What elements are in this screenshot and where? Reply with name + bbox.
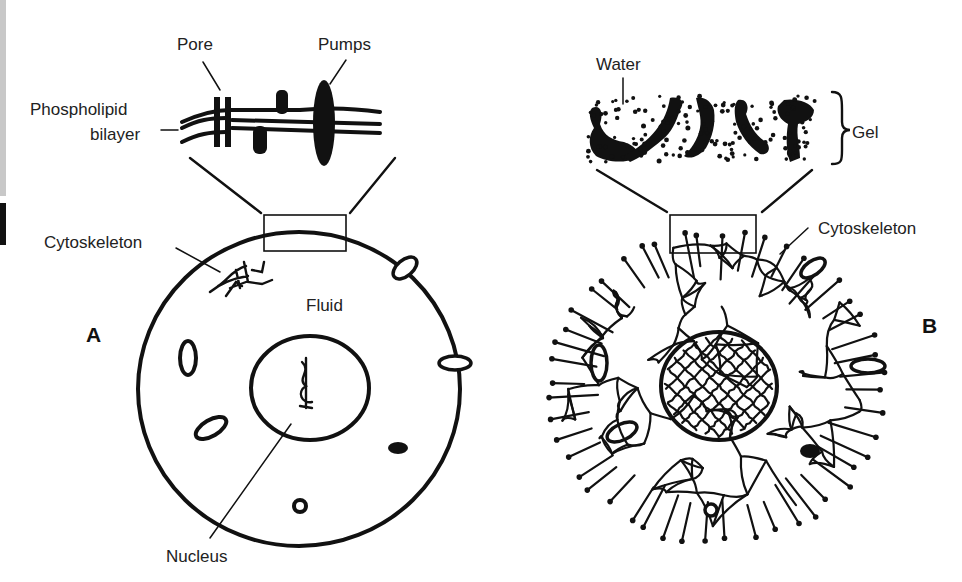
cytoskeleton-radial-fiber — [721, 236, 723, 280]
cytoskeleton-fiber — [682, 298, 694, 307]
water-dot — [752, 122, 756, 126]
cytoskeleton-fiber — [711, 244, 727, 246]
water-dot — [609, 154, 614, 159]
water-dot — [742, 125, 747, 130]
organelle-small-ring — [294, 500, 306, 512]
fiber-tip — [873, 434, 879, 440]
water-dot — [632, 142, 636, 146]
fiber-tip — [652, 242, 658, 248]
fiber-tip — [857, 312, 863, 318]
cytoskeleton-radial-fiber — [557, 429, 592, 440]
fiber-tip — [599, 278, 605, 284]
water-dot — [592, 114, 596, 118]
water-dot — [704, 127, 708, 131]
nuclear-fiber — [675, 358, 744, 428]
cytoskeleton-fiber — [827, 346, 843, 374]
water-dot — [631, 96, 635, 100]
fiber-tip — [548, 417, 554, 423]
water-dot — [787, 149, 792, 154]
water-dot — [643, 133, 647, 137]
chromatin — [300, 358, 312, 408]
cytoskeleton-fiber — [644, 413, 650, 443]
fiber-tip — [694, 233, 700, 239]
cytoskeleton-fiber — [612, 445, 628, 454]
water-dot — [805, 141, 809, 145]
water-dot — [804, 145, 808, 149]
water-dot — [803, 157, 806, 160]
fiber-tip — [847, 298, 853, 304]
cytoskeleton-fiber — [760, 276, 766, 297]
water-dot — [661, 143, 666, 148]
water-dot — [683, 113, 688, 118]
cytoskeleton-radial-fiber — [682, 503, 691, 541]
fiber-tip — [772, 526, 778, 532]
fiber-tip — [546, 395, 552, 401]
water-dot — [586, 149, 591, 154]
membrane-protein-2 — [439, 356, 471, 370]
water-dot — [813, 99, 817, 103]
water-dot — [614, 99, 617, 102]
water-dot — [632, 137, 635, 140]
water-dot — [676, 95, 680, 99]
water-dot — [692, 147, 697, 152]
water-dot — [769, 138, 773, 142]
water-dot — [791, 106, 795, 110]
water-dot — [696, 109, 699, 112]
panel-a: Pore Pumps Phospholipid bilayer Cytoskel… — [30, 35, 471, 566]
pore-label: Pore — [177, 35, 213, 54]
water-dot — [685, 126, 690, 131]
cytoskeleton-fiber — [695, 283, 705, 307]
water-dot — [769, 106, 772, 109]
cytoskeleton-radial-fiber — [805, 280, 839, 310]
cytoskeleton-radial-fiber — [549, 395, 598, 398]
water-dot — [685, 120, 689, 124]
water-dot — [688, 105, 692, 109]
water-dot — [720, 109, 725, 114]
water-dot — [749, 127, 752, 130]
water-dot — [726, 157, 731, 162]
membrane-protein-b-2 — [851, 359, 885, 373]
cytoskeleton-fiber — [568, 385, 599, 389]
water-dot — [604, 160, 608, 164]
water-dot — [682, 138, 687, 143]
water-dot — [792, 97, 796, 101]
fiber-tip — [682, 230, 688, 236]
water-dot — [662, 104, 666, 108]
water-dot — [633, 109, 638, 114]
water-dot — [625, 144, 630, 149]
water-dot — [677, 110, 681, 114]
water-dot — [603, 145, 608, 150]
water-dot — [726, 109, 730, 113]
cytoskeleton-radial-fiber — [663, 496, 678, 539]
water-dot — [662, 129, 666, 133]
water-dot — [589, 111, 592, 114]
fiber-tip — [762, 235, 768, 241]
water-dot — [705, 131, 709, 135]
cytoskeleton-fiber — [757, 260, 766, 276]
cytoskeleton-fiber — [744, 256, 757, 260]
cytoskeleton-fiber — [666, 492, 697, 493]
water-dot — [681, 100, 685, 104]
cytoskeleton-fiber — [685, 307, 694, 315]
water-dot — [785, 112, 789, 116]
cell-diagram: Pore Pumps Phospholipid bilayer Cytoskel… — [0, 0, 962, 582]
water-dot — [703, 140, 707, 144]
cytoskeleton-fiber — [562, 418, 575, 421]
cytoskeleton-radial-fiber — [569, 442, 600, 457]
organelle-dark — [388, 442, 408, 454]
organelle-oval-1 — [180, 341, 196, 375]
gel-fiber-4 — [735, 100, 769, 155]
fiber-tip — [679, 538, 685, 544]
fiber-tip — [880, 410, 886, 416]
cytoskeleton-fiber — [627, 307, 634, 316]
cytoskeleton-radial-fiber — [587, 467, 616, 490]
water-dot — [664, 152, 668, 156]
water-dot — [748, 141, 751, 144]
pumps-label: Pumps — [318, 35, 371, 54]
fluid-label: Fluid — [306, 296, 343, 315]
panel-a-label: A — [86, 323, 101, 346]
fiber-tip — [847, 484, 853, 490]
cytoskeleton-radial-fiber — [813, 460, 850, 487]
fiber-tip — [566, 454, 572, 460]
fiber-tip — [720, 233, 726, 239]
